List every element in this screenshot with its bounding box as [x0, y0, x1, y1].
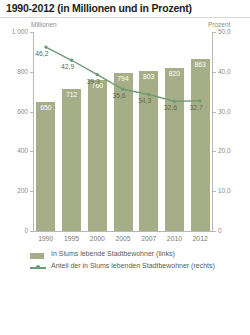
left-tick-label: 800: [2, 68, 28, 75]
right-tick-mark: [213, 191, 216, 192]
legend-line-label: Anteil der in Slums lebenden Stadtbewohn…: [51, 262, 215, 269]
right-tick-label: 40,0: [218, 68, 231, 75]
left-tick-label: 400: [2, 147, 28, 154]
legend-bar-label: In Slums lebende Stadtbewohner (links): [51, 250, 175, 257]
line-point-marker: [198, 99, 201, 102]
page-title: 1990-2012 (in Millionen und in Prozent): [6, 2, 192, 14]
legend-bar-swatch-icon: [30, 253, 44, 259]
title-divider: [0, 17, 250, 18]
right-tick-mark: [213, 231, 216, 232]
line-value-label: 46,2: [30, 50, 54, 57]
line-value-label: 42,9: [56, 63, 80, 70]
right-tick-mark: [213, 32, 216, 33]
right-tick-label: 10,0: [218, 187, 231, 194]
left-tick-label: 200: [2, 187, 28, 194]
right-tick-mark: [213, 151, 216, 152]
line-point-marker: [147, 93, 150, 96]
x-axis-line: [33, 231, 213, 232]
left-tick-label: 0: [2, 227, 28, 234]
right-tick-mark: [213, 72, 216, 73]
legend-line-swatch-icon: [30, 267, 46, 269]
line-value-label: 39,3: [81, 78, 105, 85]
line-point-marker: [44, 45, 47, 48]
plot-area: 650712760794803820863: [33, 32, 213, 231]
line-point-marker: [121, 88, 124, 91]
left-tick-label: 600: [2, 108, 28, 115]
right-tick-label: 0: [218, 227, 222, 234]
right-tick-label: 30,0: [218, 108, 231, 115]
left-tick-mark: [30, 231, 33, 232]
left-axis-caption: Millionen: [31, 21, 57, 28]
line-point-marker: [70, 59, 73, 62]
x-axis-label: 2012: [185, 235, 215, 242]
right-tick-label: 20,0: [218, 147, 231, 154]
line-point-marker: [96, 73, 99, 76]
line-value-label: 34,3: [133, 97, 157, 104]
right-axis-caption: Prozent: [208, 21, 230, 28]
right-tick-mark: [213, 112, 216, 113]
line-point-marker: [173, 100, 176, 103]
line-value-label: 32,7: [184, 104, 208, 111]
chart-root: 1990-2012 (in Millionen und in Prozent) …: [0, 0, 250, 335]
line-series: [33, 32, 213, 231]
right-tick-label: 50,0: [218, 28, 231, 35]
line-value-label: 35,6: [107, 92, 131, 99]
left-tick-label: 1 000: [2, 28, 28, 35]
line-value-label: 32,6: [158, 104, 182, 111]
